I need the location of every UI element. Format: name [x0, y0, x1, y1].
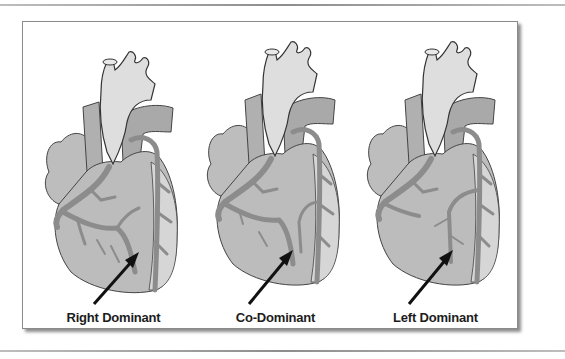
bottom-divider: [0, 350, 565, 352]
top-divider: [0, 4, 565, 6]
heart-illustration-icon: [353, 22, 518, 312]
panel-label: Right Dominant: [31, 310, 196, 325]
coronary-dominance-figure: Right Dominant Co-Dominant: [22, 21, 518, 329]
heart-illustration-icon: [31, 22, 196, 312]
panel-label: Left Dominant: [353, 310, 518, 325]
heart-illustration-icon: [193, 22, 358, 312]
panel-label: Co-Dominant: [193, 310, 358, 325]
panel-left-dominant: Left Dominant: [353, 22, 518, 328]
panel-co-dominant: Co-Dominant: [193, 22, 358, 328]
panel-right-dominant: Right Dominant: [31, 22, 196, 328]
